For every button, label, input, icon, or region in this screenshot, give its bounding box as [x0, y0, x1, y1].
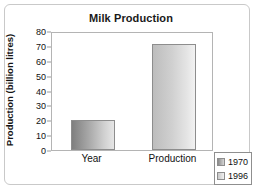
legend-label: 1996 [228, 171, 248, 181]
x-axis-label-production: Production [149, 153, 197, 164]
x-axis-category-labels: YearProduction [51, 153, 213, 169]
y-axis-tick-label: 80 [36, 27, 46, 37]
legend-item-1996[interactable]: 1996 [217, 169, 249, 183]
y-axis-tick-label: 40 [36, 87, 46, 97]
plot-area [51, 32, 213, 151]
bar-1970 [71, 120, 115, 150]
y-axis-title-container: Production (billion litres) [2, 26, 16, 154]
chart-title: Milk Production [50, 12, 212, 24]
y-axis-tick-label: 70 [36, 42, 46, 52]
y-axis-tick-label: 60 [36, 57, 46, 67]
y-axis-tick-labels: 80706050403020100 [16, 32, 51, 151]
milk-production-chart: Milk Production Production (billion litr… [0, 0, 256, 191]
y-axis-title: Production (billion litres) [4, 34, 15, 146]
y-axis-tick-label: 20 [36, 116, 46, 126]
y-axis-tick-label: 10 [36, 131, 46, 141]
bar-1996 [152, 44, 196, 150]
bars-layer [52, 33, 212, 150]
y-axis-tick-label: 50 [36, 72, 46, 82]
legend-item-1970[interactable]: 1970 [217, 155, 249, 169]
legend-swatch-icon [217, 158, 225, 166]
legend-label: 1970 [228, 157, 248, 167]
y-axis-tick-label: 0 [41, 146, 46, 156]
y-axis-tick-label: 30 [36, 101, 46, 111]
x-axis-label-year: Year [81, 153, 101, 164]
chart-legend: 19701996 [214, 152, 252, 185]
legend-swatch-icon [217, 172, 225, 180]
